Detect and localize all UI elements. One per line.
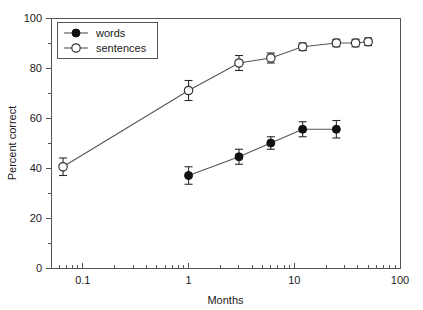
y-tick-label: 60 [30, 112, 42, 124]
line-chart: 0.1110100 020406080100 MonthsPercent cor… [0, 0, 423, 310]
data-point-sentences [184, 86, 192, 94]
x-tick-label: 0.1 [75, 274, 90, 286]
data-point-words [267, 139, 275, 147]
data-point-words [235, 153, 243, 161]
x-tick-label: 1 [185, 274, 191, 286]
chart-legend: wordssentences [57, 22, 157, 58]
y-tick-label: 100 [24, 12, 42, 24]
legend-label-sentences: sentences [96, 42, 147, 54]
legend-label-words: words [95, 27, 126, 39]
y-tick-label: 20 [30, 212, 42, 224]
data-point-sentences [59, 163, 67, 171]
data-point-sentences [332, 39, 340, 47]
data-point-sentences [298, 43, 306, 51]
data-point-sentences [364, 38, 372, 46]
legend-marker-words [72, 29, 80, 37]
data-point-sentences [267, 54, 275, 62]
data-point-words [185, 172, 193, 180]
y-tick-label: 0 [36, 262, 42, 274]
y-axis-title-group: Percent correct [6, 106, 18, 181]
y-tick-label: 80 [30, 62, 42, 74]
data-point-sentences [351, 39, 359, 47]
x-axis-title: Months [207, 294, 244, 306]
legend-marker-sentences [72, 44, 80, 52]
x-tick-label: 100 [391, 274, 409, 286]
y-axis-title: Percent correct [6, 106, 18, 181]
data-point-sentences [235, 59, 243, 67]
y-tick-label: 40 [30, 162, 42, 174]
x-tick-label: 10 [288, 274, 300, 286]
legend-entry-sentences[interactable]: sentences [64, 42, 147, 54]
data-point-words [332, 125, 340, 133]
chart-container: 0.1110100 020406080100 MonthsPercent cor… [0, 0, 423, 310]
data-point-words [299, 125, 307, 133]
